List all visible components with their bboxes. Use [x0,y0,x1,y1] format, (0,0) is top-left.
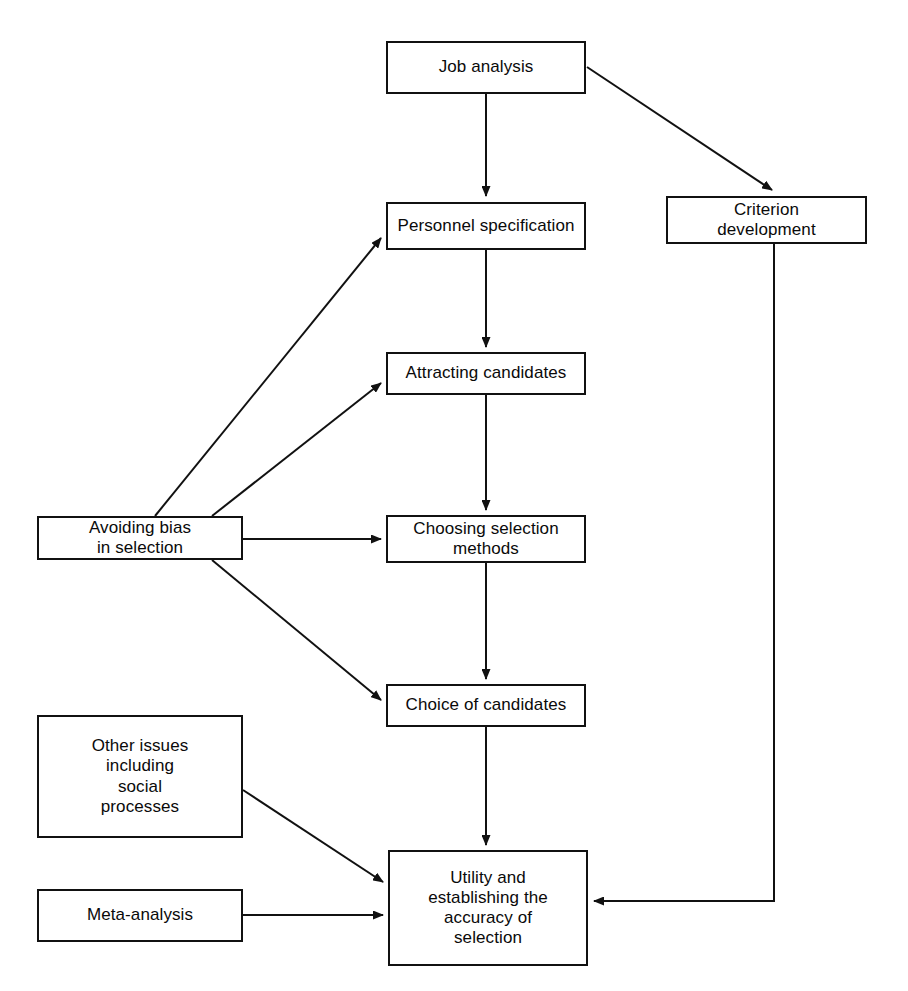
node-choosing-selection-methods[interactable]: Choosing selection methods [386,515,586,563]
edge-other-issues-to-utility [243,790,383,882]
node-choosing-selection-methods-label: Choosing selection methods [407,519,564,559]
node-personnel-specification-label: Personnel specification [391,216,580,236]
flowchart-canvas: Job analysis Criterion development Perso… [0,0,908,991]
flowchart-connectors [0,0,908,991]
node-utility-and-accuracy-label: Utility and establishing the accuracy of… [422,868,554,948]
node-attracting-candidates-label: Attracting candidates [400,363,573,383]
node-utility-and-accuracy[interactable]: Utility and establishing the accuracy of… [388,850,588,966]
node-choice-of-candidates[interactable]: Choice of candidates [386,684,586,727]
node-attracting-candidates[interactable]: Attracting candidates [386,352,586,395]
node-job-analysis-label: Job analysis [433,57,540,77]
node-other-issues[interactable]: Other issues including social processes [37,715,243,838]
node-meta-analysis[interactable]: Meta-analysis [37,889,243,942]
node-choice-of-candidates-label: Choice of candidates [400,695,573,715]
node-job-analysis[interactable]: Job analysis [386,41,586,94]
node-meta-analysis-label: Meta-analysis [81,905,199,925]
node-avoiding-bias-in-selection[interactable]: Avoiding bias in selection [37,516,243,560]
node-other-issues-label: Other issues including social processes [86,736,195,816]
node-criterion-development-label: Criterion development [711,200,821,240]
edge-avoiding-bias-to-choice-of-candidates [212,560,381,700]
edge-job-analysis-to-criterion-development [587,67,772,190]
node-criterion-development[interactable]: Criterion development [666,196,867,244]
node-avoiding-bias-in-selection-label: Avoiding bias in selection [83,518,197,558]
edge-avoiding-bias-to-personnel-specification [155,238,381,516]
node-personnel-specification[interactable]: Personnel specification [386,202,586,250]
edge-criterion-development-to-utility [594,244,774,901]
edge-avoiding-bias-to-attracting-candidates [212,383,381,516]
